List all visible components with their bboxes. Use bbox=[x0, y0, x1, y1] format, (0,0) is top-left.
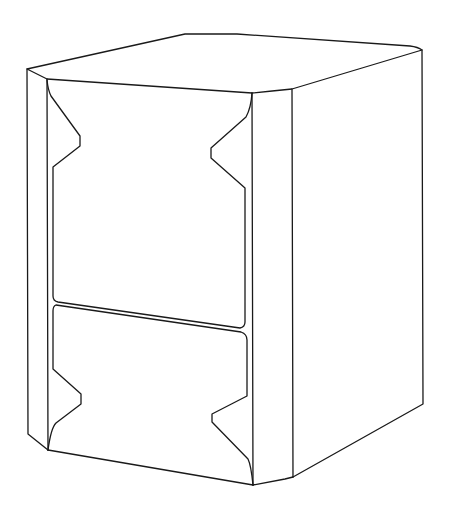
front-right-edge bbox=[252, 93, 253, 485]
cabinet-drawing bbox=[0, 0, 453, 513]
right-outer-edge bbox=[293, 50, 423, 477]
front-lower-panel bbox=[48, 305, 253, 485]
front-upper-panel bbox=[47, 80, 252, 328]
left-outer-edge bbox=[27, 69, 48, 450]
right-chamfer-edge bbox=[292, 89, 293, 477]
left-chamfer-edge bbox=[47, 79, 48, 450]
top-face-outline bbox=[27, 34, 422, 93]
bottom-right-chamfer bbox=[253, 477, 293, 485]
front-bottom-edge bbox=[48, 450, 253, 485]
